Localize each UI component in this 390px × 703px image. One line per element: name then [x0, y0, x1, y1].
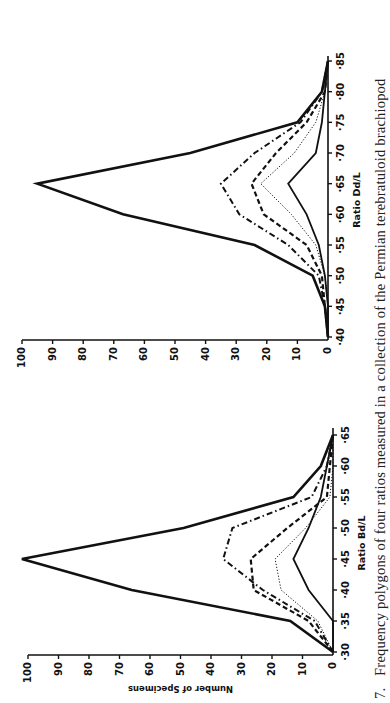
x-tick-label: ·65	[340, 426, 351, 444]
series-line-solid-thin	[293, 435, 333, 652]
x-tick-label: ·70	[335, 144, 346, 162]
x-tick-label: ·45	[340, 550, 351, 568]
caption-text: Frequency polygons of four ratios measur…	[372, 78, 388, 675]
y-tick-label: 100	[16, 347, 27, 368]
x-tick-label: ·55	[335, 236, 346, 254]
y-tick-label: 30	[236, 662, 247, 676]
x-tick-label: ·40	[340, 581, 351, 599]
y-axis-title: Number of Specimens	[128, 684, 233, 694]
y-tick-label: 30	[230, 347, 241, 361]
y-tick-label: 50	[169, 347, 180, 361]
x-tick-label: ·30	[340, 643, 351, 661]
y-tick-label: 80	[77, 347, 88, 361]
y-tick-label: 80	[83, 662, 94, 676]
x-axis-title: Ratio Dd/L	[351, 172, 362, 228]
frequency-polygon-charts: ·30·35·40·45·50·55·60·65Ratio Bd/L010203…	[0, 0, 390, 703]
y-tick-label: 50	[175, 662, 186, 676]
x-tick-label: ·55	[340, 488, 351, 506]
y-tick-label: 0	[322, 347, 333, 354]
y-tick-label: 60	[144, 662, 155, 676]
x-tick-label: ·50	[335, 267, 346, 285]
y-tick-label: 70	[114, 662, 125, 676]
y-tick-label: 100	[22, 662, 33, 683]
y-tick-label: 20	[266, 662, 277, 676]
series-line-dotted	[261, 61, 328, 337]
figure-caption: 7. Frequency polygons of four ratios mea…	[372, 0, 389, 703]
x-tick-label: ·50	[340, 519, 351, 537]
x-tick-label: ·60	[340, 457, 351, 475]
x-tick-label: ·35	[340, 612, 351, 630]
y-tick-label: 10	[291, 347, 302, 361]
y-tick-label: 0	[327, 662, 338, 669]
y-tick-label: 10	[297, 662, 308, 676]
chart-2: ·40·45·50·55·60·65·70·75·80·85Ratio Dd/L…	[16, 52, 362, 368]
y-tick-label: 70	[108, 347, 119, 361]
y-tick-label: 40	[200, 347, 211, 361]
series-line-solid-heavy	[37, 61, 328, 337]
series-line-solid-heavy	[22, 435, 333, 652]
x-tick-label: ·60	[335, 205, 346, 223]
caption-number: 7.	[372, 688, 388, 699]
x-tick-label: ·65	[335, 175, 346, 193]
chart-1: ·30·35·40·45·50·55·60·65Ratio Bd/L010203…	[22, 426, 367, 694]
y-tick-label: 90	[47, 347, 58, 361]
y-tick-label: 60	[138, 347, 149, 361]
series-line-dashed	[252, 61, 329, 337]
figure-page: ·30·35·40·45·50·55·60·65Ratio Bd/L010203…	[0, 0, 390, 703]
x-axis-title: Ratio Bd/L	[356, 516, 367, 571]
y-tick-label: 90	[53, 662, 64, 676]
x-tick-label: ·85	[335, 52, 346, 70]
y-tick-label: 20	[261, 347, 272, 361]
x-tick-label: ·40	[335, 328, 346, 346]
y-tick-label: 40	[205, 662, 216, 676]
x-tick-label: ·75	[335, 113, 346, 131]
x-tick-label: ·80	[335, 83, 346, 101]
x-tick-label: ·45	[335, 297, 346, 315]
